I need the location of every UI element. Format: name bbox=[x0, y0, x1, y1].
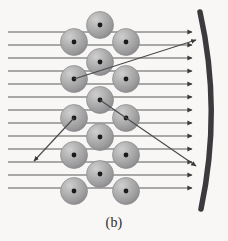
nucleus-dot bbox=[98, 23, 103, 28]
spheres-group bbox=[61, 12, 140, 205]
nucleus-dot bbox=[98, 60, 103, 65]
scattering-sphere bbox=[87, 49, 114, 76]
scattering-sphere bbox=[61, 142, 88, 169]
scattering-sphere bbox=[113, 66, 140, 93]
nucleus-dot bbox=[72, 189, 77, 194]
nucleus-dot bbox=[72, 153, 77, 158]
nucleus-dot bbox=[124, 77, 129, 82]
nucleus-dot bbox=[124, 153, 129, 158]
scattering-sphere bbox=[113, 29, 140, 56]
physics-diagram-svg bbox=[0, 0, 228, 241]
figure-container: (b) bbox=[0, 0, 228, 241]
scattering-sphere bbox=[61, 178, 88, 205]
nucleus-dot bbox=[124, 40, 129, 45]
scattering-sphere bbox=[87, 124, 114, 151]
scattering-sphere bbox=[113, 142, 140, 169]
scattering-sphere bbox=[61, 29, 88, 56]
nucleus-dot bbox=[98, 135, 103, 140]
nucleus-dot bbox=[98, 172, 103, 177]
nucleus-dot bbox=[124, 189, 129, 194]
nucleus-dot bbox=[72, 40, 77, 45]
scattering-sphere bbox=[87, 12, 114, 39]
scattering-sphere bbox=[113, 178, 140, 205]
scattering-sphere bbox=[87, 161, 114, 188]
curved-reflector bbox=[200, 12, 211, 209]
